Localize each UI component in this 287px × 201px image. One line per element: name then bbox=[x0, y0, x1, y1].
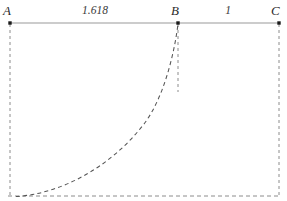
exponential-curve bbox=[16, 24, 178, 197]
point-label-a: A bbox=[3, 4, 11, 17]
figure-canvas: A B C 1.618 1 bbox=[0, 0, 287, 201]
point-marker-b bbox=[176, 21, 179, 24]
diagram-svg bbox=[0, 0, 287, 201]
point-label-b: B bbox=[171, 4, 179, 17]
point-label-c: C bbox=[271, 4, 280, 17]
point-marker-c bbox=[277, 21, 280, 24]
point-marker-a bbox=[8, 21, 11, 24]
segment-label-ab: 1.618 bbox=[82, 5, 108, 17]
segment-label-bc: 1 bbox=[225, 5, 231, 17]
